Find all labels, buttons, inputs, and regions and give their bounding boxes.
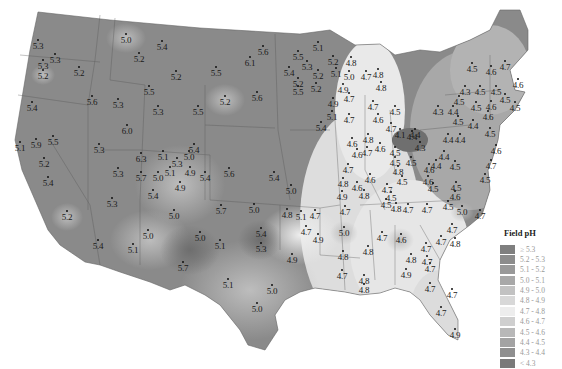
legend-item: 4.5 - 4.6	[500, 327, 560, 337]
station-ph-value: 4.7	[436, 308, 446, 318]
legend-label: 4.8 - 4.9	[520, 296, 545, 305]
station-ph-value: 4.5	[475, 87, 485, 97]
legend-label: 4.7 - 4.8	[520, 307, 545, 316]
legend-item: < 4.3	[500, 358, 560, 368]
legend-swatch	[500, 296, 515, 305]
station-ph-value: 5.2	[313, 71, 323, 81]
station-ph-value: 4.5	[450, 162, 460, 172]
station-ph-value: 4.8	[338, 252, 348, 262]
station-ph-value: 5.0	[286, 186, 296, 196]
station-ph-value: 5.2	[171, 72, 181, 82]
station-ph-value: 5.3	[50, 55, 60, 65]
station-ph-value: 4.6	[424, 165, 434, 175]
station-ph-value: 4.9	[175, 183, 185, 193]
station-ph-value: 5.9	[31, 140, 41, 150]
station-ph-value: 4.7	[475, 211, 485, 221]
station-ph-value: 5.1	[313, 43, 323, 53]
station-ph-value: 5.4	[27, 103, 37, 113]
station-ph-value: 4.6	[396, 235, 406, 245]
station-ph-value: 4.5	[406, 158, 416, 168]
station-ph-value: 5.5	[293, 87, 303, 97]
station-ph-value: 4.8	[450, 239, 460, 249]
legend-item: 4.9 - 5.0	[500, 286, 560, 296]
station-ph-value: 4.5	[453, 117, 463, 127]
legend-item: ≥ 5.3	[500, 244, 560, 254]
station-ph-value: 5.1	[165, 168, 175, 178]
station-ph-value: 4.5	[390, 107, 400, 117]
station-ph-value: 4.9	[450, 330, 460, 340]
station-ph-value: 5.4	[148, 191, 158, 201]
station-ph-value: 5.5	[293, 52, 303, 62]
station-ph-value: 4.4	[468, 121, 478, 131]
station-ph-value: 4.7	[425, 284, 435, 294]
station-ph-value: 4.6	[450, 192, 460, 202]
station-ph-value: 4.9	[287, 255, 297, 265]
station-ph-value: 4.7	[368, 102, 378, 112]
station-ph-value: 6.3	[136, 154, 146, 164]
station-ph-value: 4.5	[443, 202, 453, 212]
station-ph-value: 5.5	[193, 107, 203, 117]
station-ph-value: 5.1	[15, 143, 25, 153]
station-ph-value: 4.4	[439, 152, 449, 162]
legend-swatch	[500, 348, 515, 357]
station-ph-value: 5.4	[93, 241, 103, 251]
station-ph-value: 5.6	[258, 47, 268, 57]
station-ph-value: 5.0	[267, 286, 277, 296]
legend-item: 4.8 - 4.9	[500, 296, 560, 306]
legend-item: 5.1 - 5.2	[500, 265, 560, 275]
legend-swatch	[500, 286, 515, 295]
station-ph-value: 5.6	[87, 97, 97, 107]
station-ph-value: 4.7	[343, 165, 353, 175]
station-ph-value: 4.5	[467, 64, 477, 74]
station-ph-value: 5.7	[216, 206, 226, 216]
station-ph-value: 4.6	[352, 150, 362, 160]
station-ph-value: 4.6	[486, 67, 496, 77]
station-ph-value: 4.7	[362, 148, 372, 158]
legend-item: 4.4 - 4.5	[500, 338, 560, 348]
station-ph-value: 6.1	[245, 58, 255, 68]
station-ph-value: 5.0	[195, 233, 205, 243]
station-ph-value: 4.4	[443, 135, 453, 145]
station-ph-value: 5.1	[223, 280, 233, 290]
station-ph-value: 5.4	[189, 145, 199, 155]
station-ph-value: 4.8	[338, 179, 348, 189]
station-ph-value: 5.4	[316, 123, 326, 133]
station-ph-value: 4.7	[500, 62, 510, 72]
station-ph-value: 4.6	[483, 112, 493, 122]
station-ph-value: 4.8	[359, 285, 369, 295]
station-ph-value: 4.9	[401, 270, 411, 280]
station-ph-value: 4.5	[485, 129, 495, 139]
station-ph-value: 5.0	[339, 228, 349, 238]
legend-label: 4.4 - 4.5	[520, 338, 545, 347]
station-ph-value: 5.2	[134, 54, 144, 64]
station-ph-value: 4.7	[422, 257, 432, 267]
station-ph-value: 4.7	[447, 225, 457, 235]
station-ph-value: 4.3	[460, 87, 470, 97]
station-ph-value: 5.1	[215, 241, 225, 251]
legend-label: 5.0 - 5.1	[520, 276, 545, 285]
legend-swatch	[500, 245, 515, 254]
station-ph-value: 5.7	[178, 263, 188, 273]
station-ph-value: 4.5	[397, 177, 407, 187]
station-ph-value: 4.6	[491, 146, 501, 156]
station-ph-value: 4.8	[376, 83, 386, 93]
station-ph-value: 4.4	[407, 132, 417, 142]
legend-title: Field pH	[504, 228, 560, 238]
station-ph-value: 5.5	[48, 137, 58, 147]
station-ph-value: 4.8	[363, 135, 373, 145]
station-ph-value: 4.5	[510, 103, 520, 113]
station-ph-value: 5.3	[113, 100, 123, 110]
station-ph-value: 4.7	[337, 271, 347, 281]
legend-item: 4.3 - 4.4	[500, 348, 560, 358]
station-ph-value: 4.9	[328, 99, 338, 109]
station-ph-value: 5.4	[157, 42, 167, 52]
station-ph-value: 5.5	[144, 87, 154, 97]
station-ph-value: 4.9	[337, 192, 347, 202]
station-ph-value: 5.6	[252, 93, 262, 103]
legend-swatch	[500, 307, 515, 316]
station-ph-value: 5.0	[143, 231, 153, 241]
legend-item: 5.2 - 5.3	[500, 254, 560, 264]
legend-label: 4.5 - 4.6	[520, 328, 545, 337]
legend-swatch	[500, 255, 515, 264]
station-ph-value: 5.6	[224, 169, 234, 179]
